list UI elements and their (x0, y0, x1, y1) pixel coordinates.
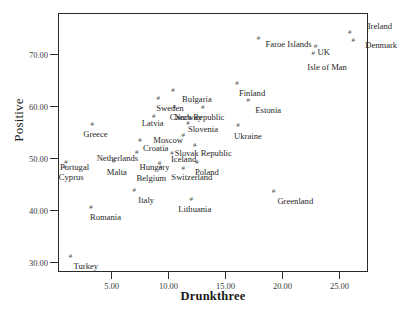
data-point-marker (89, 204, 93, 210)
data-point-marker (69, 253, 73, 259)
data-point-label: Hungary (139, 163, 169, 172)
x-axis-tick-label: 15.00 (206, 281, 246, 291)
data-point-label: Lithuania (178, 205, 211, 214)
data-point-label: Isle of Man (307, 63, 347, 72)
data-point-label: Greenland (277, 197, 313, 206)
data-point-label: Ukraine (234, 132, 262, 141)
data-point-marker (195, 159, 199, 165)
x-axis-tick-label: 10.00 (149, 281, 189, 291)
data-point-label: Iceland (171, 155, 196, 164)
data-point-label: UK (318, 48, 330, 57)
data-point-marker (235, 80, 239, 86)
data-point-marker (90, 121, 94, 127)
data-point-marker (159, 164, 163, 170)
x-axis-tick (282, 272, 283, 279)
data-point-label: Netherlands (97, 154, 139, 163)
data-point-marker (138, 137, 142, 143)
y-axis-tick-label: 70.00 (6, 50, 48, 60)
data-point-marker (348, 29, 352, 35)
x-axis-title: Drunkthree (58, 289, 368, 304)
x-axis-tick (168, 272, 169, 279)
x-axis-tick-label: 20.00 (263, 281, 303, 291)
data-point-label: Romania (90, 213, 121, 222)
data-point-label: Turkey (74, 262, 99, 271)
data-point-label: Latvia (142, 119, 164, 128)
data-point-label: Ireland (368, 22, 392, 31)
data-point-label: Slovenia (188, 125, 218, 134)
x-axis-tick-label: 25.00 (320, 281, 360, 291)
y-axis-tick-label: 40.00 (6, 206, 48, 216)
y-axis-tick (50, 106, 58, 107)
y-axis-tick-label: 60.00 (6, 102, 48, 112)
x-axis-tick (225, 272, 226, 279)
y-axis-tick (50, 210, 58, 211)
data-point-marker (132, 187, 136, 193)
data-point-label: Switzerland (171, 173, 212, 182)
data-point-label: Faroe Islands (266, 40, 312, 49)
data-point-marker (181, 165, 185, 171)
data-point-label: Czech Republic (170, 113, 225, 122)
data-point-marker (189, 196, 193, 202)
data-point-label: Malta (107, 168, 127, 177)
data-point-marker (63, 164, 67, 170)
data-point-marker (311, 50, 315, 56)
data-point-marker (156, 95, 160, 101)
data-point-label: Belgium (137, 174, 167, 183)
data-point-label: Italy (138, 196, 154, 205)
y-axis-tick-label: 50.00 (6, 154, 48, 164)
data-point-marker (271, 188, 275, 194)
data-point-label: Croatia (143, 144, 168, 153)
data-point-marker (201, 104, 205, 110)
data-point-marker (257, 35, 261, 41)
data-point-label: Finland (239, 89, 265, 98)
data-point-marker (172, 104, 176, 110)
data-point-label: Denmark (365, 41, 397, 50)
data-point-label: Cyprus (59, 173, 84, 182)
data-point-marker (246, 97, 250, 103)
data-point-marker (351, 37, 355, 43)
x-axis-tick-label: 5.00 (92, 281, 132, 291)
y-axis-tick (50, 54, 58, 55)
data-point-label: Estonia (255, 106, 281, 115)
data-point-marker (236, 122, 240, 128)
data-point-marker (112, 158, 116, 164)
y-axis-title: Positive (11, 80, 27, 160)
x-axis-tick (111, 272, 112, 279)
data-point-label: Bulgaria (182, 95, 212, 104)
y-axis-tick (50, 262, 58, 263)
y-axis-tick (50, 158, 58, 159)
x-axis-tick (339, 272, 340, 279)
data-point-marker (171, 87, 175, 93)
data-point-label: Greece (83, 130, 107, 139)
y-axis-tick-label: 30.00 (6, 258, 48, 268)
